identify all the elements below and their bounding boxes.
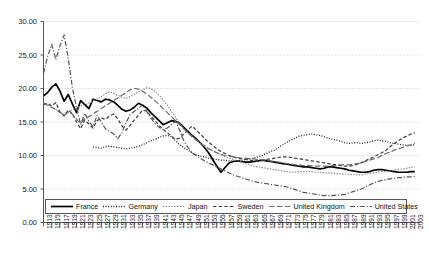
x-tick-label: 1969 (277, 214, 284, 229)
x-tick-label: 1957 (228, 214, 235, 229)
legend-item-france: France (46, 200, 98, 213)
x-tick-label: 1989 (360, 214, 367, 229)
y-tick-label: 10.00 (1, 151, 37, 160)
x-tick-label: 1955 (219, 214, 226, 229)
y-tick-label: 25.00 (1, 51, 37, 60)
x-tick-label: 1945 (178, 214, 185, 229)
gridlines (44, 22, 420, 190)
x-tick-label: 1951 (203, 214, 210, 229)
legend-item-germany: Germany (98, 200, 158, 213)
y-tick-label: 0.00 (1, 218, 37, 227)
x-tick-label: 1981 (327, 214, 334, 229)
line-chart: 0.005.0010.0015.0020.0025.0030.00 191319… (0, 0, 429, 262)
y-tick-label: 15.00 (1, 118, 37, 127)
x-tick-label: 1987 (351, 214, 358, 229)
chart-legend: FranceGermanyJapanSwedenUnited KingdomUn… (45, 199, 407, 214)
legend-label: Sweden (238, 202, 264, 211)
x-tick-label: 1929 (112, 214, 119, 229)
y-tick-label: 20.00 (1, 84, 37, 93)
x-tick-label: 1985 (343, 214, 350, 229)
x-tick-label: 1919 (71, 214, 78, 229)
x-tick-label: 1931 (120, 214, 127, 229)
x-tick-label: 1947 (186, 214, 193, 229)
x-tick-label: 1971 (285, 214, 292, 229)
axes (44, 22, 420, 223)
legend-item-japan: Japan (158, 200, 208, 213)
legend-label: United States (375, 202, 418, 211)
legend-key-icon (350, 202, 372, 211)
legend-key-icon (213, 202, 235, 211)
data-series-group (44, 35, 415, 196)
legend-item-united-states: United States (345, 200, 418, 213)
x-tick-label: 1941 (162, 214, 169, 229)
x-tick-label: 1973 (294, 214, 301, 229)
x-tick-label: 1953 (211, 214, 218, 229)
legend-label: Germany (128, 202, 158, 211)
series-line-united-kingdom (44, 89, 415, 167)
x-tick-label: 1937 (145, 214, 152, 229)
legend-label: Japan (188, 202, 208, 211)
x-tick-label: 1975 (302, 214, 309, 229)
legend-label: France (76, 202, 98, 211)
x-tick-label: 1913 (46, 214, 53, 229)
x-tick-label: 1933 (129, 214, 136, 229)
y-tick-label: 5.00 (1, 185, 37, 194)
x-tick-label: 1997 (393, 214, 400, 229)
x-tick-label: 1935 (137, 214, 144, 229)
x-tick-label: 1999 (401, 214, 408, 229)
legend-item-united-kingdom: United Kingdom (264, 200, 345, 213)
y-tick-label: 30.00 (1, 17, 37, 26)
x-tick-label: 1995 (384, 214, 391, 229)
series-line-france (44, 84, 415, 172)
x-tick-label: 1991 (368, 214, 375, 229)
x-tick-label: 1949 (195, 214, 202, 229)
x-tick-label: 1983 (335, 214, 342, 229)
x-tick-label: 1965 (261, 214, 268, 229)
legend-key-icon (269, 202, 291, 211)
x-tick-label: 1923 (87, 214, 94, 229)
legend-label: United Kingdom (294, 202, 345, 211)
x-tick-label: 1961 (244, 214, 251, 229)
legend-item-sweden: Sweden (208, 200, 264, 213)
x-tick-label: 1963 (252, 214, 259, 229)
legend-key-icon (103, 202, 125, 211)
x-tick-label: 1979 (318, 214, 325, 229)
x-tick-label: 1915 (54, 214, 61, 229)
x-tick-label: 1925 (96, 214, 103, 229)
legend-key-icon (163, 202, 185, 211)
x-tick-label: 1921 (79, 214, 86, 229)
legend-key-icon (51, 202, 73, 211)
series-line-germany (93, 134, 415, 161)
x-tick-label: 1967 (269, 214, 276, 229)
x-tick-label: 1917 (63, 214, 70, 229)
x-tick-label: 1959 (236, 214, 243, 229)
tick-marks (41, 22, 420, 227)
x-tick-label: 2001 (409, 214, 416, 229)
x-tick-label: 1939 (153, 214, 160, 229)
x-tick-label: 1977 (310, 214, 317, 229)
x-tick-label: 2003 (417, 214, 424, 229)
x-tick-label: 1993 (376, 214, 383, 229)
x-tick-label: 1927 (104, 214, 111, 229)
x-tick-label: 1943 (170, 214, 177, 229)
